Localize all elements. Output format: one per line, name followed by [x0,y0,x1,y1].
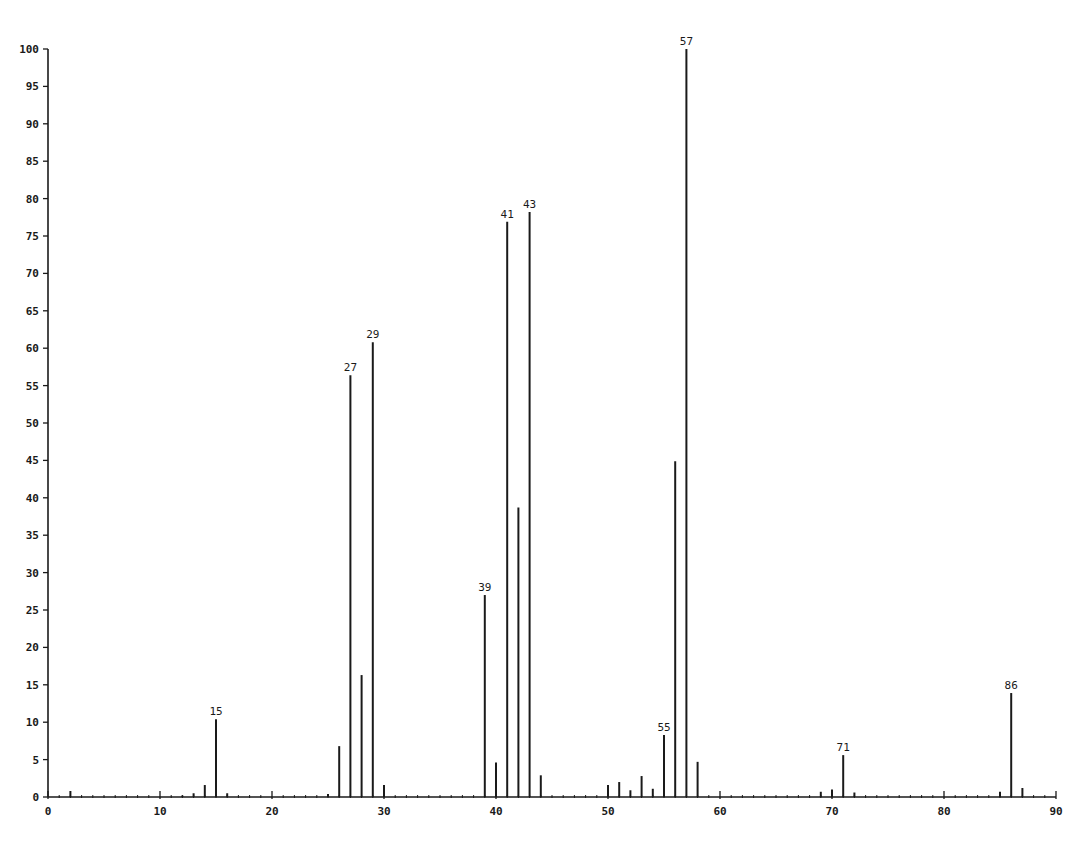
peak-label-39: 39 [478,581,491,594]
y-tick-label: 95 [26,80,39,93]
peak-labels: 15272939414355577186 [209,35,1017,754]
y-tick-label: 55 [26,380,39,393]
y-tick-label: 10 [26,716,39,729]
y-tick-label: 85 [26,155,39,168]
x-tick-label: 20 [265,805,278,818]
y-tick-label: 80 [26,193,39,206]
y-tick-label: 60 [26,342,39,355]
y-tick-label: 40 [26,492,39,505]
y-tick-label: 5 [32,754,39,767]
y-tick-label: 0 [32,791,39,804]
y-tick-label: 45 [26,454,39,467]
peak-label-86: 86 [1005,679,1018,692]
y-tick-label: 35 [26,529,39,542]
x-tick-label: 70 [825,805,838,818]
mass-spectrum-chart: 0510152025303540455055606570758085909510… [0,0,1082,842]
y-tick-label: 90 [26,118,39,131]
y-axis: 0510152025303540455055606570758085909510… [19,43,48,804]
y-tick-label: 70 [26,267,39,280]
peak-label-57: 57 [680,35,693,48]
x-tick-label: 50 [601,805,614,818]
peak-label-43: 43 [523,198,536,211]
x-tick-label: 80 [937,805,950,818]
y-tick-label: 100 [19,43,39,56]
peak-label-71: 71 [837,741,850,754]
y-tick-label: 30 [26,567,39,580]
peak-label-41: 41 [501,208,514,221]
y-tick-label: 50 [26,417,39,430]
y-tick-label: 75 [26,230,39,243]
x-tick-label: 30 [377,805,390,818]
peak-label-55: 55 [657,721,670,734]
x-tick-label: 60 [713,805,726,818]
peak-label-27: 27 [344,361,357,374]
y-tick-label: 20 [26,641,39,654]
x-tick-label: 10 [153,805,166,818]
x-tick-label: 90 [1049,805,1062,818]
x-tick-label: 0 [45,805,52,818]
x-tick-label: 40 [489,805,502,818]
y-tick-label: 25 [26,604,39,617]
x-axis: 0102030405060708090 [45,791,1063,818]
peak-label-15: 15 [209,705,222,718]
peak-bars [70,49,1022,797]
y-tick-label: 65 [26,305,39,318]
y-tick-label: 15 [26,679,39,692]
peak-label-29: 29 [366,328,379,341]
